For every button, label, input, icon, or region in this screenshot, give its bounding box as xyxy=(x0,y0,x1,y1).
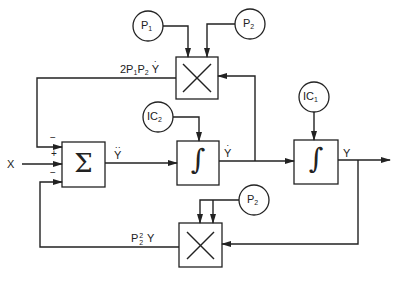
top-feedback-label: 2P1P2 Y xyxy=(120,64,159,76)
bottom-feedback-label: P22 Y xyxy=(131,232,154,246)
input-x-label: X xyxy=(7,159,14,170)
ic2-label: IC2 xyxy=(147,111,162,123)
y-double-dot-label: Y xyxy=(114,150,121,161)
p2-bottom-label: P2 xyxy=(247,194,258,206)
block-diagram: Σ ∫ ∫ P1 P2 IC2 IC1 P2 X Y Y Y 2P1P2 Y P… xyxy=(0,0,401,282)
diagram-wires xyxy=(0,0,401,282)
integral-symbol-2: ∫ xyxy=(294,145,338,173)
sigma-symbol: Σ xyxy=(62,150,105,176)
summer-sign-bottom: − xyxy=(50,168,56,178)
p1-label: P1 xyxy=(141,20,152,32)
integral-symbol-1: ∫ xyxy=(177,146,219,174)
summer-sign-middle: + xyxy=(51,149,57,159)
summer-sign-top: − xyxy=(50,133,56,143)
y-dot-label: Y xyxy=(224,148,231,159)
y-output-label: Y xyxy=(343,148,350,159)
p2-top-label: P2 xyxy=(243,18,254,30)
ic1-label: IC1 xyxy=(303,91,318,103)
